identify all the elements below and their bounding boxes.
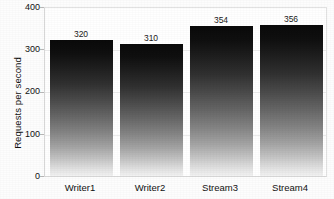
x-label-stream4: Stream4 <box>255 182 325 194</box>
bar-value-stream3: 354 <box>186 16 256 25</box>
x-label-writer1: Writer1 <box>45 182 115 194</box>
y-axis-ticks: 400 300 200 100 0 <box>12 0 40 199</box>
bar-chart: Requests per second 400 300 200 100 0 <box>0 0 334 199</box>
x-axis-labels: Writer1 Writer2 Stream3 Stream4 <box>44 182 327 196</box>
bar-slot-3 <box>260 8 323 176</box>
y-tick-label-100: 100 <box>14 130 40 139</box>
bar-stream4[interactable] <box>260 25 323 176</box>
bar-writer2[interactable] <box>120 44 183 176</box>
bar-value-writer1: 320 <box>46 30 116 39</box>
y-tick-label-0: 0 <box>14 172 40 181</box>
bar-slot-2 <box>190 8 253 176</box>
x-label-writer2: Writer2 <box>115 182 185 194</box>
y-tick-label-200: 200 <box>14 87 40 96</box>
y-tick-label-400: 400 <box>14 3 40 12</box>
bar-stream3[interactable] <box>190 26 253 176</box>
bar-value-writer2: 310 <box>116 34 186 43</box>
x-label-stream3: Stream3 <box>185 182 255 194</box>
bar-value-stream4: 356 <box>256 15 326 24</box>
y-tick-label-300: 300 <box>14 45 40 54</box>
plot-area: 320 310 354 356 <box>44 7 327 177</box>
bar-writer1[interactable] <box>50 40 113 176</box>
